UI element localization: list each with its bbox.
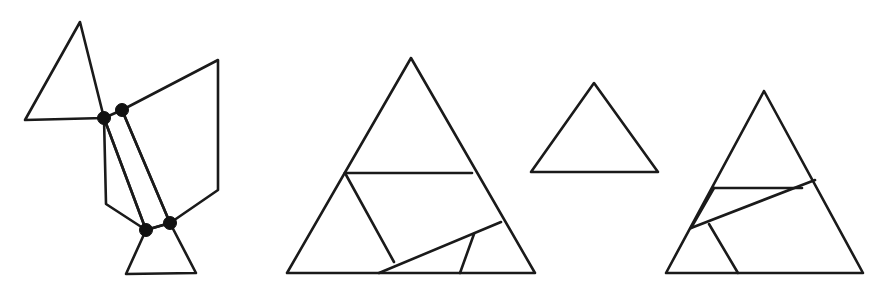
hinge-dot-upper-left [98, 112, 111, 125]
hinge-dot-upper-right [116, 104, 129, 117]
geometry-figure-canvas [0, 0, 886, 292]
canvas-background [0, 0, 886, 292]
hinge-dot-lower-left [140, 224, 153, 237]
hinge-dot-lower-right [164, 217, 177, 230]
